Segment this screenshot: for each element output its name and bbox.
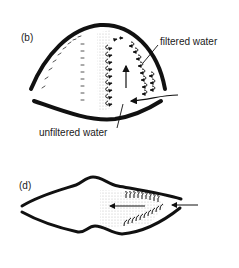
figure-b — [31, 25, 178, 128]
figure-d-label: (d) — [19, 181, 31, 191]
figure-b-label: (b) — [21, 33, 33, 43]
gill-dashes-middle — [81, 44, 84, 100]
filtered-water-label: filtered water — [160, 37, 217, 47]
stipple-region — [97, 30, 112, 112]
figure-d — [22, 177, 198, 234]
shell-bottom-outline — [34, 101, 161, 119]
inflow-arrow — [131, 95, 178, 101]
unfiltered-water-label: unfiltered water — [39, 128, 107, 138]
